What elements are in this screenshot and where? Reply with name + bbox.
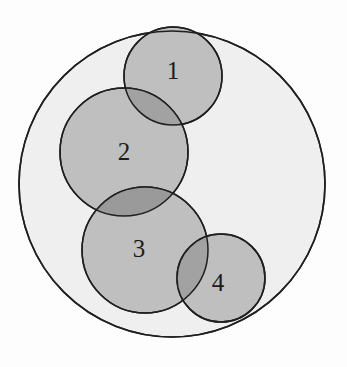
figure-root: 1 2 3 4 (0, 0, 347, 367)
venn-diagram: 1 2 3 4 (0, 0, 347, 367)
